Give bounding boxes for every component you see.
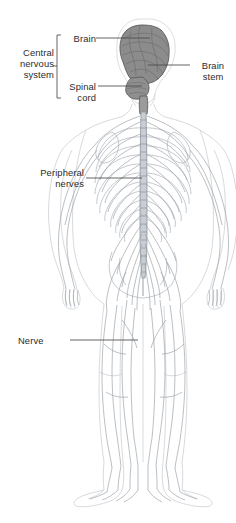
label-brain-stem: Brain stem: [192, 60, 234, 82]
label-brain: Brain: [50, 33, 96, 44]
label-nerve: Nerve: [18, 335, 66, 346]
label-central-nervous-system: Central nervous system: [2, 47, 54, 81]
nervous-system-diagram: Central nervous system Brain Spinal cord…: [0, 0, 236, 523]
label-peripheral-nerves: Peripheral nerves: [2, 167, 84, 189]
label-spinal-cord: Spinal cord: [46, 81, 96, 103]
spinal-cord-shape: [140, 112, 147, 296]
